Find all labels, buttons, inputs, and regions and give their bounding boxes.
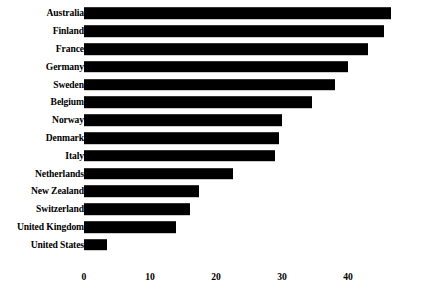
bar: [84, 25, 384, 37]
bar: [84, 8, 391, 20]
horizontal-bar-chart: Australia Finland France Germany Sweden …: [0, 0, 422, 301]
category-label: Sweden: [53, 80, 84, 90]
bar: [84, 114, 282, 126]
bar-row: Germany: [0, 58, 422, 76]
bar: [84, 168, 233, 180]
bar-row: Sweden: [0, 76, 422, 94]
bar-row: New Zealand: [0, 183, 422, 201]
plot-area: Australia Finland France Germany Sweden …: [0, 0, 422, 275]
category-label: United States: [31, 240, 84, 250]
category-label: Australia: [47, 9, 84, 19]
bar-row: Netherlands: [0, 165, 422, 183]
category-label: Italy: [65, 151, 84, 161]
bar-row: Finland: [0, 22, 422, 40]
bar: [84, 221, 176, 233]
x-axis: 0 10 20 30 40: [0, 272, 422, 292]
x-tick-label: 20: [211, 272, 221, 282]
bar: [84, 97, 312, 109]
category-label: Netherlands: [35, 169, 84, 179]
x-tick-label: 40: [343, 272, 353, 282]
bar: [84, 132, 279, 144]
category-label: Switzerland: [36, 204, 84, 214]
bar-row: Switzerland: [0, 200, 422, 218]
x-tick-label: 30: [277, 272, 287, 282]
bar-row: Denmark: [0, 129, 422, 147]
bar: [84, 203, 190, 215]
bar: [84, 239, 107, 251]
bar: [84, 186, 199, 198]
bar-row: Australia: [0, 5, 422, 23]
category-label: Belgium: [51, 98, 84, 108]
bar-row: Italy: [0, 147, 422, 165]
category-label: United Kingdom: [17, 222, 84, 232]
category-label: Denmark: [46, 133, 84, 143]
bar: [84, 79, 335, 91]
x-tick-label: 0: [82, 272, 87, 282]
x-tick-label: 10: [145, 272, 155, 282]
category-label: France: [56, 44, 84, 54]
bar-row: France: [0, 40, 422, 58]
bar: [84, 43, 368, 55]
category-label: Germany: [46, 62, 84, 72]
category-label: Finland: [53, 26, 84, 36]
bar-row: Belgium: [0, 94, 422, 112]
bar-row: United States: [0, 236, 422, 254]
bar: [84, 150, 275, 162]
category-label: Norway: [52, 115, 84, 125]
category-label: New Zealand: [31, 187, 84, 197]
bar-row: Norway: [0, 111, 422, 129]
bar: [84, 61, 348, 73]
bar-row: United Kingdom: [0, 218, 422, 236]
